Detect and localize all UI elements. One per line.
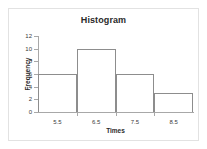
x-tick-label: 5.5 — [53, 119, 61, 125]
y-tick-mark — [34, 112, 38, 113]
y-tick-mark — [34, 49, 38, 50]
chart-title: Histogram — [0, 15, 207, 25]
histogram-bar — [77, 49, 116, 112]
histogram-bar — [116, 74, 155, 112]
y-tick-mark — [34, 36, 38, 37]
plot-area: 0246810125.56.57.58.5 — [38, 36, 193, 112]
x-tick-mark — [116, 112, 117, 116]
histogram-figure: Histogram Frequency 0246810125.56.57.58.… — [0, 0, 207, 149]
y-tick-label: 2 — [29, 96, 32, 102]
x-tick-mark — [77, 112, 78, 116]
y-axis-label-holder: Frequency — [0, 36, 24, 112]
y-tick-label: 12 — [25, 33, 32, 39]
x-tick-label: 7.5 — [131, 119, 139, 125]
histogram-bar — [38, 74, 77, 112]
y-tick-label: 8 — [29, 58, 32, 64]
y-tick-label: 6 — [29, 71, 32, 77]
y-tick-label: 0 — [29, 109, 32, 115]
x-tick-label: 8.5 — [169, 119, 177, 125]
x-tick-mark — [154, 112, 155, 116]
x-axis-label: Times — [38, 127, 193, 134]
x-tick-label: 6.5 — [92, 119, 100, 125]
y-tick-mark — [34, 61, 38, 62]
histogram-bar — [154, 93, 193, 112]
y-tick-label: 4 — [29, 84, 32, 90]
y-tick-label: 10 — [25, 46, 32, 52]
